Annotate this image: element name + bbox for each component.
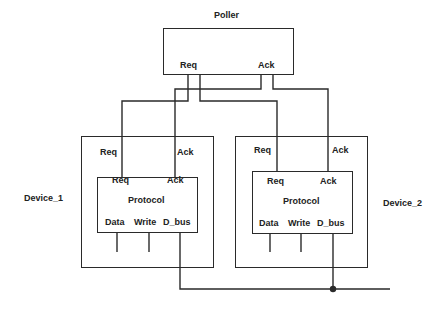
poller-title: Poller <box>214 11 239 20</box>
device1-protocol-title: Protocol <box>128 196 165 205</box>
device2-port-dbus: D_bus <box>317 219 345 228</box>
device2-outer-ack: Ack <box>332 146 349 155</box>
device1-protocol-ack: Ack <box>167 176 184 185</box>
device2-label: Device_2 <box>383 199 422 208</box>
device2-protocol-title: Protocol <box>283 197 320 206</box>
diagram-canvas: Poller Req Ack Device_1 Req Ack Req Ack … <box>0 0 444 311</box>
device1-outer-req: Req <box>100 148 117 157</box>
device1-port-data: Data <box>105 218 125 227</box>
device1-port-write: Write <box>134 218 156 227</box>
bus-junction-dot <box>330 286 336 292</box>
device1-protocol-req: Req <box>112 176 129 185</box>
device2-protocol-req: Req <box>267 177 284 186</box>
device1-label: Device_1 <box>24 194 63 203</box>
poller-ack-port: Ack <box>258 61 275 70</box>
device2-port-data: Data <box>259 219 279 228</box>
device2-outer-req: Req <box>254 146 271 155</box>
device2-port-write: Write <box>288 219 310 228</box>
device1-outer-ack: Ack <box>177 148 194 157</box>
device1-port-dbus: D_bus <box>163 218 191 227</box>
device2-protocol-ack: Ack <box>320 177 337 186</box>
poller-req-port: Req <box>180 61 197 70</box>
